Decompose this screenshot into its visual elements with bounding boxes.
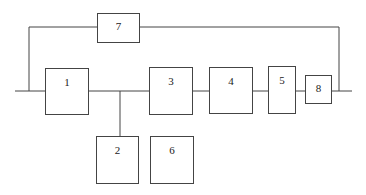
block-8: 8 [305, 75, 332, 104]
block-label: 1 [46, 76, 88, 88]
block-2: 2 [96, 136, 139, 184]
block-label: 4 [210, 75, 252, 87]
block-label: 3 [150, 75, 192, 87]
block-label: 8 [306, 82, 331, 94]
block-label: 5 [269, 74, 295, 86]
block-4: 4 [209, 67, 253, 114]
block-7: 7 [97, 13, 140, 43]
block-label: 6 [151, 144, 193, 156]
block-label: 2 [97, 144, 138, 156]
block-6: 6 [150, 136, 194, 184]
block-5: 5 [268, 66, 296, 114]
block-1: 1 [45, 68, 89, 115]
block-label: 7 [98, 20, 139, 32]
block-3: 3 [149, 67, 193, 115]
